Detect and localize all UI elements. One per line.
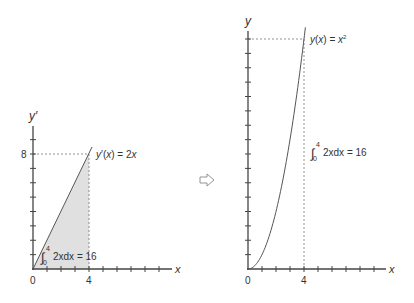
y-tick-label-8: 8 bbox=[21, 149, 27, 160]
function-label: y′(x) = 2x bbox=[95, 149, 138, 160]
derivative-chart: y′ x 8 0 4 y′(x) = 2x ∫ 4 0 2xdx = 16 bbox=[21, 109, 181, 286]
parabola-curve bbox=[248, 27, 305, 269]
x-axis-label: x bbox=[174, 263, 181, 275]
x-tick-label-4: 4 bbox=[86, 275, 92, 286]
x-axis-label: x bbox=[388, 263, 395, 275]
x-tick-label-4: 4 bbox=[301, 275, 307, 286]
function-label: y(x) = x2 bbox=[309, 34, 347, 45]
integral-annotation: ∫ 4 0 2xdx = 16 bbox=[310, 141, 367, 162]
y-axis-label: y′ bbox=[28, 109, 38, 123]
integral-upper: 4 bbox=[46, 245, 50, 252]
y-axis-label: y bbox=[244, 14, 252, 28]
calculus-figure: y′ x 8 0 4 y′(x) = 2x ∫ 4 0 2xdx = 16 y … bbox=[0, 0, 414, 303]
integrand: 2xdx = 16 bbox=[323, 147, 367, 158]
integrand: 2xdx = 16 bbox=[53, 251, 97, 262]
integral-lower: 0 bbox=[43, 259, 47, 266]
integral-lower: 0 bbox=[313, 155, 317, 162]
x-tick-label-0: 0 bbox=[30, 275, 36, 286]
x-tick-label-0: 0 bbox=[245, 275, 251, 286]
right-arrow-icon bbox=[200, 174, 214, 186]
antiderivative-chart: y x 0 4 y(x) = x2 ∫ 4 0 2xdx = 16 bbox=[244, 14, 395, 286]
integral-upper: 4 bbox=[316, 141, 320, 148]
